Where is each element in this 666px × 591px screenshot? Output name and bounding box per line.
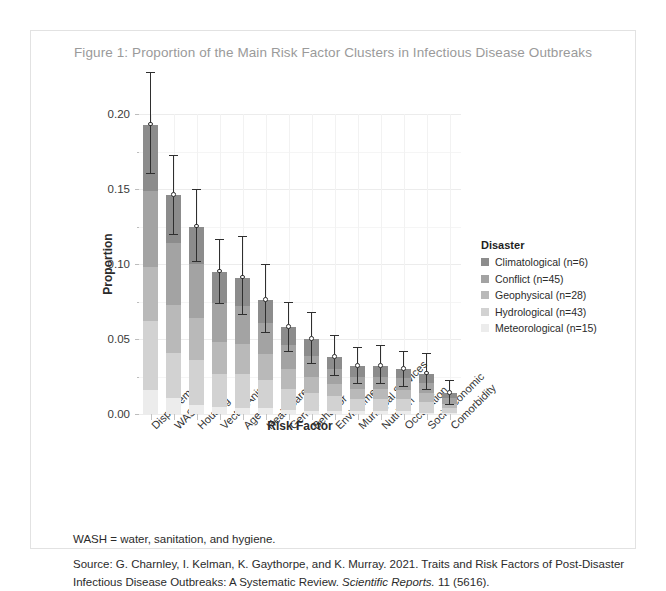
legend-swatch	[481, 258, 489, 266]
data-point-marker	[447, 390, 452, 395]
error-bar	[143, 114, 157, 414]
figure-footnote: WASH = water, sanitation, and hygiene. S…	[73, 531, 633, 591]
y-tick-mark-minor	[137, 377, 140, 378]
data-point-marker	[378, 363, 383, 368]
error-bar	[281, 114, 295, 414]
figure-container: Figure 1: Proportion of the Main Risk Fa…	[30, 30, 636, 549]
gridline-major	[139, 114, 461, 115]
footnote-abbreviation: WASH = water, sanitation, and hygiene.	[73, 531, 633, 549]
error-bar-cap-upper	[284, 302, 293, 303]
y-tick-mark-minor	[137, 302, 140, 303]
y-tick-mark	[135, 264, 139, 265]
gridline-minor	[139, 227, 461, 228]
error-bar-cap-lower	[445, 404, 454, 405]
error-bar-cap-lower	[238, 314, 247, 315]
legend-item-label: Hydrological (n=43)	[495, 306, 586, 318]
gridline-minor	[139, 152, 461, 153]
error-bar-cap-lower	[192, 261, 201, 262]
chart-legend: Disaster Climatological (n=6)Conflict (n…	[481, 239, 631, 339]
y-tick-label: 0.00	[108, 408, 130, 420]
gridline-major	[139, 339, 461, 340]
y-tick-mark	[135, 414, 139, 415]
source-journal: Scientific Reports.	[342, 576, 435, 588]
legend-item-label: Conflict (n=45)	[495, 273, 564, 285]
y-tick-label: 0.15	[108, 183, 130, 195]
figure-title: Figure 1: Proportion of the Main Risk Fa…	[31, 45, 635, 60]
y-tick-mark	[135, 189, 139, 190]
data-point-marker	[217, 269, 222, 274]
error-bar	[304, 114, 318, 414]
error-bar	[419, 114, 433, 414]
plot-area: Proportion 0.000.050.100.150.20Displacem…	[139, 114, 461, 414]
error-bar	[396, 114, 410, 414]
error-bar-cap-lower	[399, 386, 408, 387]
error-bar-cap-lower	[169, 234, 178, 235]
error-bar	[442, 114, 456, 414]
error-bar-cap-lower	[353, 383, 362, 384]
legend-item-label: Geophysical (n=28)	[495, 289, 586, 301]
footnote-source: Source: G. Charnley, I. Kelman, K. Gayth…	[73, 556, 633, 591]
y-tick-label: 0.10	[108, 258, 130, 270]
gridline-major	[139, 189, 461, 190]
gridline-minor	[139, 302, 461, 303]
legend-swatch	[481, 291, 489, 299]
data-point-marker	[171, 192, 176, 197]
y-tick-label: 0.05	[108, 333, 130, 345]
error-bar-cap-lower	[284, 351, 293, 352]
gridline-major	[139, 264, 461, 265]
error-bar-cap-upper	[146, 72, 155, 73]
legend-item[interactable]: Climatological (n=6)	[481, 256, 631, 268]
data-point-marker	[240, 275, 245, 280]
source-suffix: 11 (5616).	[435, 576, 490, 588]
legend-item[interactable]: Meteorological (n=15)	[481, 322, 631, 334]
data-point-marker	[148, 122, 153, 127]
error-bar-cap-upper	[399, 351, 408, 352]
error-bar-cap-upper	[422, 353, 431, 354]
data-point-marker	[355, 363, 360, 368]
legend-items: Climatological (n=6)Conflict (n=45)Geoph…	[481, 256, 631, 334]
y-tick-mark	[135, 339, 139, 340]
x-axis-title: Risk Factor	[139, 419, 461, 433]
error-bar-cap-lower	[146, 173, 155, 174]
data-point-marker	[424, 371, 429, 376]
error-bar-cap-upper	[215, 239, 224, 240]
legend-title: Disaster	[481, 239, 631, 251]
data-point-marker	[401, 366, 406, 371]
y-tick-mark	[135, 114, 139, 115]
error-bar	[327, 114, 341, 414]
legend-item[interactable]: Conflict (n=45)	[481, 273, 631, 285]
error-bar-cap-upper	[238, 236, 247, 237]
error-bar-cap-lower	[330, 375, 339, 376]
error-bar	[235, 114, 249, 414]
error-bar	[166, 114, 180, 414]
error-bar-cap-lower	[307, 363, 316, 364]
error-bar-cap-upper	[169, 155, 178, 156]
legend-item-label: Climatological (n=6)	[495, 256, 588, 268]
error-bar-cap-lower	[422, 389, 431, 390]
legend-item-label: Meteorological (n=15)	[495, 322, 597, 334]
error-bar-cap-upper	[376, 345, 385, 346]
y-tick-label: 0.20	[108, 108, 130, 120]
data-point-marker	[286, 324, 291, 329]
error-bar	[258, 114, 272, 414]
error-bar-cap-lower	[376, 383, 385, 384]
y-tick-mark-minor	[137, 227, 140, 228]
legend-swatch	[481, 308, 489, 316]
error-bar	[212, 114, 226, 414]
legend-swatch	[481, 275, 489, 283]
data-point-marker	[332, 354, 337, 359]
error-bar-cap-upper	[330, 335, 339, 336]
error-bar	[373, 114, 387, 414]
y-tick-mark-minor	[137, 152, 140, 153]
legend-swatch	[481, 324, 489, 332]
error-bar-cap-upper	[192, 189, 201, 190]
legend-item[interactable]: Hydrological (n=43)	[481, 306, 631, 318]
data-point-marker	[309, 336, 314, 341]
error-bar-cap-upper	[307, 312, 316, 313]
error-bar-cap-lower	[261, 332, 270, 333]
data-point-marker	[263, 297, 268, 302]
error-bar	[350, 114, 364, 414]
error-bar-cap-upper	[353, 347, 362, 348]
error-bar-cap-upper	[261, 264, 270, 265]
legend-item[interactable]: Geophysical (n=28)	[481, 289, 631, 301]
